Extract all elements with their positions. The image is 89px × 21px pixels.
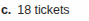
answer-value-text: 18 tickets — [17, 0, 69, 21]
answer-item-label: c. — [1, 0, 11, 21]
answer-line: c. 18 tickets — [1, 0, 89, 21]
screenshot-root: c. 18 tickets — [0, 0, 89, 21]
